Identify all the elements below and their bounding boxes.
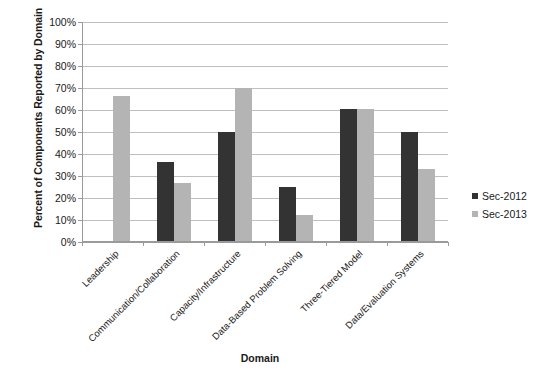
y-tick-mark (78, 198, 82, 199)
gridline (82, 154, 448, 155)
legend-swatch-icon (472, 211, 478, 217)
y-tick-mark (78, 110, 82, 111)
legend-item[interactable]: Sec-2013 (472, 206, 527, 221)
y-tick-label: 70% (36, 82, 76, 94)
bar (174, 183, 191, 242)
plot-area (82, 22, 448, 242)
legend-item[interactable]: Sec-2012 (472, 188, 527, 203)
gridline (82, 110, 448, 111)
bar (296, 215, 313, 243)
category-tick (265, 242, 266, 246)
y-axis-line (82, 22, 83, 242)
legend-label: Sec-2013 (482, 208, 527, 220)
bar (418, 169, 435, 242)
gridline (82, 198, 448, 199)
y-tick-label: 30% (36, 170, 76, 182)
bar (401, 132, 418, 242)
category-tick (143, 242, 144, 246)
y-tick-mark (78, 176, 82, 177)
bar (357, 109, 374, 242)
y-tick-label: 50% (36, 126, 76, 138)
y-tick-label: 90% (36, 38, 76, 50)
legend-label: Sec-2012 (482, 190, 527, 202)
category-tick (387, 242, 388, 246)
gridline (82, 22, 448, 23)
bar (157, 162, 174, 242)
y-tick-label: 0% (36, 236, 76, 248)
gridline (82, 88, 448, 89)
bar (113, 96, 130, 242)
gridline (82, 132, 448, 133)
category-tick (448, 242, 449, 246)
y-tick-mark (78, 66, 82, 67)
category-tick (204, 242, 205, 246)
y-tick-mark (78, 88, 82, 89)
bar (218, 132, 235, 242)
y-tick-mark (78, 22, 82, 23)
gridline (82, 176, 448, 177)
bar (235, 88, 252, 242)
y-tick-mark (78, 154, 82, 155)
bar (279, 187, 296, 242)
bar-chart: Percent of Components Reported by Domain… (0, 0, 558, 387)
y-tick-label: 80% (36, 60, 76, 72)
y-tick-label: 40% (36, 148, 76, 160)
category-tick (82, 242, 83, 246)
gridline (82, 66, 448, 67)
y-tick-label: 20% (36, 192, 76, 204)
y-tick-label: 100% (36, 16, 76, 28)
y-tick-label: 60% (36, 104, 76, 116)
gridline (82, 220, 448, 221)
legend-swatch-icon (472, 193, 478, 199)
x-axis-title: Domain (0, 352, 520, 364)
bar (340, 109, 357, 242)
y-tick-mark (78, 44, 82, 45)
y-tick-label: 10% (36, 214, 76, 226)
y-tick-mark (78, 132, 82, 133)
chart-legend: Sec-2012Sec-2013 (472, 188, 527, 224)
y-tick-mark (78, 242, 82, 243)
gridline (82, 44, 448, 45)
y-tick-mark (78, 220, 82, 221)
category-tick (326, 242, 327, 246)
